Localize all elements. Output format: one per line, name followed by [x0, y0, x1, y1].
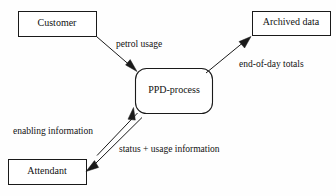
diagram-canvas: Customer Archived data PPD-process Atten…: [0, 0, 336, 196]
node-label-attendant: Attendant: [8, 166, 86, 176]
flow-label-status-usage-information: status + usage information: [119, 145, 220, 155]
arrowhead-enabling-information: [128, 108, 135, 121]
node-label-archived-data: Archived data: [252, 17, 330, 27]
flow-label-end-of-day-totals: end-of-day totals: [239, 60, 304, 70]
arrowhead-petrol-usage: [126, 60, 137, 72]
flow-label-petrol-usage: petrol usage: [116, 40, 162, 50]
node-label-ppd-process: PPD-process: [136, 85, 212, 95]
node-label-customer: Customer: [18, 18, 96, 28]
arrowhead-end-of-day-totals: [239, 37, 251, 49]
flow-label-enabling-information: enabling information: [13, 127, 93, 137]
flow-line-status-usage-information: [95, 118, 142, 165]
